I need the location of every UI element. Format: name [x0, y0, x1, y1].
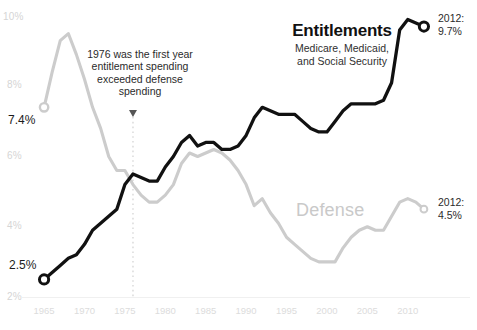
x-axis-tick-2010: 2010 — [397, 305, 418, 316]
entitlements-start-marker — [39, 275, 48, 284]
crossover-annotation-text: 1976 was the first year entitlement spen… — [86, 48, 194, 98]
entitlements-sublabel-line-1: Medicare, Medicaid, — [270, 42, 414, 55]
entitlements-series-label: Entitlements — [276, 21, 408, 41]
defense-start-marker — [40, 103, 48, 111]
entitlements-end-year: 2012: — [438, 12, 464, 25]
entitlements-series-sublabel: Medicare, Medicaid, and Social Security — [270, 42, 414, 67]
entitlements-end-value: 9.7% — [438, 25, 464, 38]
x-axis-tick-1985: 1985 — [195, 305, 216, 316]
entitlements-sublabel-line-2: and Social Security — [270, 55, 414, 68]
y-axis-tick-2: 2% — [7, 291, 22, 302]
entitlements-end-marker — [419, 22, 428, 31]
x-axis-tick-1975: 1975 — [114, 305, 135, 316]
defense-end-marker — [421, 206, 428, 213]
defense-end-callout: 2012: 4.5% — [438, 196, 464, 221]
entitlements-start-value: 2.5% — [9, 258, 36, 272]
annotation-arrow-icon — [129, 110, 137, 117]
entitlements-end-callout: 2012: 9.7% — [438, 12, 464, 37]
x-axis-tick-2000: 2000 — [316, 305, 337, 316]
defense-end-year: 2012: — [438, 196, 464, 209]
defense-end-value: 4.5% — [438, 209, 464, 222]
x-axis-tick-1970: 1970 — [74, 305, 95, 316]
y-axis-tick-6: 6% — [7, 150, 22, 161]
x-axis-tick-1990: 1990 — [236, 305, 257, 316]
y-axis-tick-4: 4% — [7, 220, 22, 231]
x-axis-tick-1995: 1995 — [276, 305, 297, 316]
chart-container: 10% 8% 6% 4% 2% 1965 1970 1975 1980 1985… — [0, 0, 477, 330]
y-axis-tick-10: 10% — [3, 11, 24, 22]
x-axis-tick-1980: 1980 — [155, 305, 176, 316]
defense-series-label: Defense — [296, 200, 364, 221]
y-axis-tick-8: 8% — [7, 79, 22, 90]
x-axis-tick-2005: 2005 — [357, 305, 378, 316]
x-axis-tick-1965: 1965 — [34, 305, 55, 316]
defense-start-value: 7.4% — [8, 113, 35, 127]
